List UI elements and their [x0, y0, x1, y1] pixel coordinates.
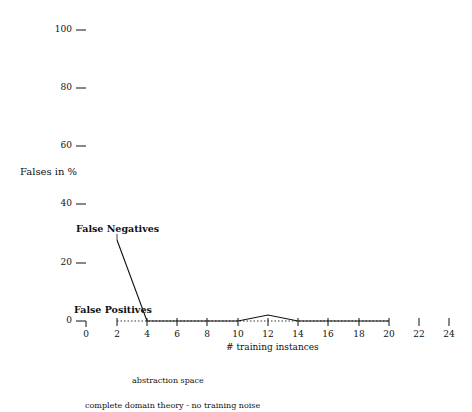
x-tick-marks — [117, 318, 449, 326]
false-negatives-line — [117, 240, 389, 321]
chart-plot-area — [0, 0, 472, 412]
y-tick-marks — [76, 30, 86, 327]
